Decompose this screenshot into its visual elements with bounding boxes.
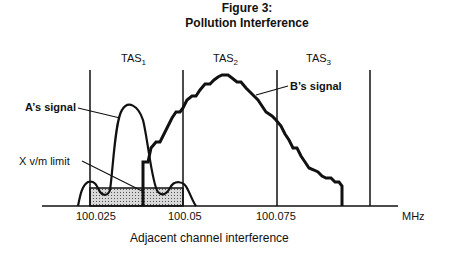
- a-signal-leader: [78, 108, 120, 118]
- tick-label-2: 100.05: [168, 210, 202, 222]
- axis-unit: MHz: [402, 210, 425, 222]
- channel-label-2: TAS2: [213, 52, 238, 67]
- a-signal-label: A’s signal: [25, 101, 76, 113]
- channel-label-1: TAS1: [121, 52, 146, 67]
- channel-label-3: TAS3: [306, 52, 331, 67]
- b-signal-curve: [143, 75, 342, 206]
- b-signal-leader: [256, 86, 288, 95]
- b-signal-label: B’s signal: [290, 80, 342, 92]
- tick-label-1: 100.025: [76, 210, 116, 222]
- interference-diagram: [0, 0, 450, 256]
- limit-label: X v/m limit: [19, 155, 70, 167]
- figure-caption: Adjacent channel interference: [130, 231, 289, 245]
- tick-label-3: 100.075: [256, 210, 296, 222]
